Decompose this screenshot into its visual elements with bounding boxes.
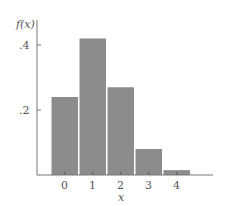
bar-chart: f(x) .4 .2 0 1 2 3 4 x	[0, 0, 225, 206]
x-tick-label-1: 1	[89, 180, 96, 191]
bar-2	[108, 87, 135, 175]
y-tick-label-0.2: .2	[19, 105, 30, 116]
bar-1	[80, 39, 107, 176]
x-tick-label-0: 0	[61, 180, 68, 191]
bar-0	[52, 97, 79, 175]
x-axis-label: x	[118, 192, 124, 203]
x-tick-label-4: 4	[173, 180, 180, 191]
x-tick-label-2: 2	[117, 180, 124, 191]
bar-3	[136, 149, 163, 175]
y-axis-label: f(x)	[16, 19, 35, 30]
x-tick-label-3: 3	[145, 180, 152, 191]
y-tick-label-0.4: .4	[19, 40, 30, 51]
